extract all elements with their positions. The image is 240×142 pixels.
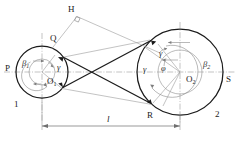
tick-arrowhead-right-mid	[162, 59, 165, 62]
tick-arrows-right	[162, 43, 190, 61]
label-gamma-left: γ	[57, 62, 61, 72]
arrowhead-right-upper	[151, 41, 156, 46]
construction-line-H-right	[77, 17, 160, 54]
label-gamma-right-lower: γ	[143, 64, 147, 74]
tick-arrowhead-left-upper	[41, 60, 44, 63]
dimension-arrowhead-right	[174, 124, 180, 128]
beta2-arrowhead	[150, 85, 154, 89]
figure-canvas: P Q H R S O1 O2 1 2 β1 β2 γ γ γ φ l	[0, 0, 240, 142]
label-beta2: β2	[202, 59, 210, 70]
diagram-svg: P Q H R S O1 O2 1 2 β1 β2 γ γ γ φ l	[0, 0, 240, 142]
label-O2: O2	[186, 74, 196, 85]
label-phi: φ	[161, 63, 166, 73]
label-S: S	[226, 74, 231, 84]
dimension-arrowhead-left	[42, 124, 48, 128]
arrowhead-left-lower	[58, 83, 63, 88]
label-pulley-1-number: 1	[14, 99, 19, 109]
label-dimension-l: l	[107, 114, 110, 124]
label-P: P	[5, 63, 10, 73]
label-H: H	[68, 4, 75, 14]
gamma-right-arrowhead	[164, 48, 167, 51]
tick-arrowhead-right-upper	[168, 41, 171, 44]
label-beta1: β1	[21, 58, 29, 69]
label-R: R	[147, 110, 153, 120]
label-pulley-2-number: 2	[215, 109, 220, 119]
radius-line-1-upper	[42, 55, 55, 72]
dimension-line-group	[42, 100, 180, 130]
label-Q: Q	[50, 33, 57, 43]
label-O1: O1	[47, 76, 57, 87]
